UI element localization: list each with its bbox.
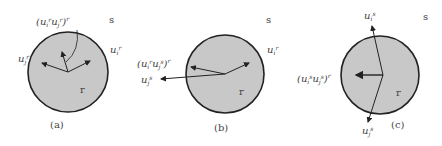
- caption-c: (c): [391, 119, 405, 130]
- correlation-label: (uirujs)r: [137, 57, 171, 71]
- region-s-label: s: [266, 14, 271, 25]
- correlation-label: (uirujr)r: [36, 15, 70, 29]
- vector-label-uj: ujs: [362, 125, 373, 138]
- caption-a: (a): [50, 119, 64, 130]
- region-r-label: r: [80, 84, 85, 95]
- region-r-label: r: [396, 87, 401, 98]
- vector-label-ui: uir: [267, 44, 279, 56]
- region-r-label: r: [239, 86, 244, 97]
- caption-b: (b): [214, 122, 228, 133]
- vector-label-ui: uir: [110, 44, 122, 56]
- panel-c: (uisujs)r uis ujs s r (c): [297, 10, 428, 138]
- panel-b: (uirujs)r ujs uir s r (b): [137, 14, 279, 133]
- figure: (uirujr)r ujr uir s r (a) (uirujs)r ujs …: [0, 0, 442, 146]
- panel-a: (uirujr)r ujr uir s r (a): [18, 14, 122, 130]
- vector-label-ui: uis: [364, 10, 375, 22]
- correlation-label: (uisujs)r: [297, 72, 332, 86]
- region-s-label: s: [109, 14, 114, 25]
- region-s-label: s: [423, 11, 428, 22]
- vector-label-uj: ujs: [141, 74, 152, 87]
